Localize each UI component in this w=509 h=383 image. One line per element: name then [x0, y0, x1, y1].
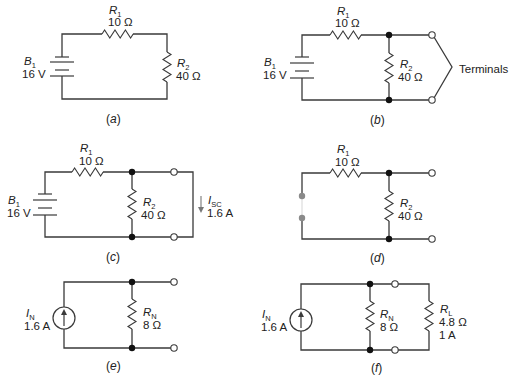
current-source-e — [53, 307, 75, 329]
circuit-f — [290, 281, 433, 353]
resistor-r2-d — [385, 191, 393, 221]
rl-current-f: 1 A — [439, 329, 456, 341]
source-value-e: 1.6 A — [24, 320, 50, 332]
terminal-bottom — [171, 234, 177, 240]
r2-label-b: R2 — [400, 58, 412, 72]
terminal-top — [429, 170, 435, 176]
source-value-f: 1.6 A — [261, 321, 287, 333]
r2-label-c: R2 — [143, 196, 155, 210]
terminal-bottom — [171, 345, 177, 351]
node-dot — [129, 345, 135, 351]
shorted-source-node — [299, 215, 305, 221]
caption-d: (d) — [370, 251, 385, 265]
shorted-source-node — [299, 193, 305, 199]
source-label-f: IN — [262, 308, 271, 322]
circuit-diagrams — [0, 0, 509, 383]
circuit-a — [50, 30, 171, 99]
circuit-c — [33, 168, 204, 240]
caption-a: (a) — [106, 112, 121, 126]
r2-value-b: 40 Ω — [398, 71, 423, 83]
terminal-bottom — [392, 347, 398, 353]
caption-b: (b) — [370, 113, 385, 127]
resistor-rl-f — [425, 301, 433, 331]
battery-label-b: B1 — [264, 56, 276, 70]
node-dot — [386, 97, 392, 103]
terminals-label: Terminals — [459, 63, 508, 75]
node-dot — [129, 234, 135, 240]
battery-a — [50, 57, 74, 76]
node-dot — [367, 347, 373, 353]
rn-label-e: RN — [143, 306, 157, 320]
battery-label-c: B1 — [8, 194, 20, 208]
battery-c — [33, 194, 57, 215]
battery-b — [290, 57, 314, 78]
terminal-top — [392, 281, 398, 287]
battery-value-b: 16 V — [263, 69, 287, 81]
isc-value: 1.6 A — [207, 207, 233, 219]
terminal-top — [171, 169, 177, 175]
node-dot — [386, 170, 392, 176]
r1-value-c: 10 Ω — [79, 155, 104, 167]
terminal-top — [429, 32, 435, 38]
battery-value-c: 16 V — [7, 207, 31, 219]
rn-label-f: RN — [380, 308, 394, 322]
resistor-rn-f — [366, 301, 374, 331]
node-dot — [129, 279, 135, 285]
node-dot — [367, 281, 373, 287]
resistor-r1-d — [330, 169, 361, 177]
r1-value-a: 10 Ω — [108, 16, 133, 28]
terminal-top — [171, 279, 177, 285]
resistor-r1-b — [330, 31, 361, 39]
node-dot — [386, 32, 392, 38]
circuit-d — [299, 169, 435, 242]
rl-value-f: 4.8 Ω — [439, 316, 467, 328]
resistor-r1-a — [102, 30, 133, 38]
resistor-r2-c — [128, 189, 136, 219]
resistor-rn-e — [128, 299, 136, 329]
r1-label-c: R1 — [80, 142, 92, 156]
arrow-down-icon — [198, 196, 204, 213]
battery-label-a: B1 — [24, 55, 36, 69]
r1-label-d: R1 — [337, 143, 349, 157]
rn-value-f: 8 Ω — [380, 321, 398, 333]
circuit-b — [290, 31, 452, 103]
node-dot — [386, 236, 392, 242]
rl-label-f: RL — [440, 303, 452, 317]
r1-value-d: 10 Ω — [335, 156, 360, 168]
resistor-r2-b — [385, 53, 393, 83]
terminal-bottom — [429, 236, 435, 242]
isc-label: ISC — [208, 194, 222, 208]
caption-f: (f) — [371, 361, 382, 375]
node-dot — [129, 169, 135, 175]
r2-value-a: 40 Ω — [176, 70, 201, 82]
current-source-f — [290, 309, 312, 331]
battery-value-a: 16 V — [22, 68, 46, 80]
caption-c: (c) — [106, 250, 120, 264]
source-label-e: IN — [26, 307, 35, 321]
resistor-r1-c — [72, 168, 103, 176]
rn-value-e: 8 Ω — [143, 319, 161, 331]
resistor-r2-a — [163, 52, 171, 82]
r2-value-c: 40 Ω — [141, 209, 166, 221]
terminal-bottom — [429, 97, 435, 103]
r2-label-a: R2 — [177, 57, 189, 71]
r1-value-b: 10 Ω — [335, 17, 360, 29]
r2-value-d: 40 Ω — [398, 210, 423, 222]
circuit-e — [53, 279, 177, 351]
r2-label-d: R2 — [400, 197, 412, 211]
caption-e: (e) — [106, 359, 121, 373]
